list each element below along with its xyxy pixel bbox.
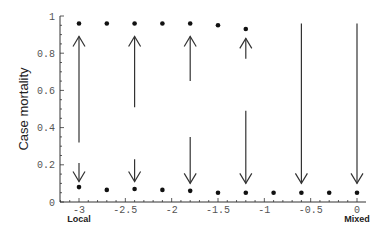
- chart-canvas: 00.20.40.60.81 -3-2.5-2-1.5-1-0.50 Case …: [0, 0, 382, 234]
- down-arrow: [295, 23, 307, 183]
- data-point: [105, 21, 110, 26]
- data-points: [77, 21, 360, 195]
- up-arrow: [184, 36, 196, 81]
- data-point: [132, 187, 137, 192]
- data-point: [244, 190, 249, 195]
- x-axis-right-label: Mixed: [344, 214, 370, 224]
- arrow-annotations: [73, 23, 363, 183]
- x-tick-label: -2.5: [113, 205, 137, 216]
- y-axis-title: Case mortality: [16, 67, 31, 151]
- data-point: [105, 188, 110, 193]
- down-arrow: [129, 159, 141, 181]
- data-point: [77, 185, 82, 190]
- x-axis-left-label: Local: [67, 214, 91, 224]
- data-point: [216, 23, 221, 28]
- data-point: [216, 190, 221, 195]
- y-tick-label: 0.6: [37, 86, 55, 97]
- data-point: [355, 190, 360, 195]
- x-tick-label: -0.5: [299, 205, 323, 216]
- y-tick-label: 0.2: [37, 160, 55, 171]
- down-arrow: [73, 163, 85, 182]
- down-arrow: [184, 137, 196, 184]
- data-point: [299, 190, 304, 195]
- y-axis: 00.20.40.60.81: [37, 12, 64, 209]
- up-arrow: [73, 36, 85, 142]
- data-point: [188, 21, 193, 26]
- y-tick-label: 0.4: [37, 123, 55, 134]
- y-tick-label: 0.8: [37, 49, 55, 60]
- up-arrow: [129, 36, 141, 107]
- x-axis: -3-2.5-2-1.5-1-0.50: [60, 198, 366, 216]
- data-point: [244, 27, 249, 32]
- down-arrow: [351, 23, 363, 183]
- data-point: [188, 189, 193, 194]
- y-tick-label: 1: [49, 12, 55, 23]
- data-point: [160, 21, 165, 26]
- data-point: [160, 188, 165, 193]
- up-arrow: [240, 38, 252, 58]
- data-point: [327, 190, 332, 195]
- down-arrow: [240, 111, 252, 184]
- x-tick-label: -2: [166, 205, 178, 216]
- data-point: [271, 190, 276, 195]
- x-tick-label: -1: [258, 205, 270, 216]
- data-point: [77, 21, 82, 26]
- y-tick-label: 0: [49, 198, 55, 209]
- x-tick-label: -1.5: [206, 205, 230, 216]
- data-point: [132, 21, 137, 26]
